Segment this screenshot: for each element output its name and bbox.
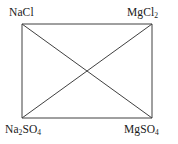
node-label-top-right: MgCl2 xyxy=(127,7,158,20)
node-label-bottom-left: Na2SO4 xyxy=(5,124,41,137)
formula-na2so4-so: SO xyxy=(22,123,37,135)
formula-nacl: NaCl xyxy=(9,6,34,18)
formula-mgcl2-base: MgCl xyxy=(127,6,154,18)
formula-mgcl2-subscript: 2 xyxy=(154,11,158,20)
diagram-canvas: NaCl MgCl2 Na2SO4 MgSO4 xyxy=(0,0,178,144)
formula-mgso4-subscript: 4 xyxy=(155,128,159,137)
formula-na2so4-na: Na xyxy=(5,123,19,135)
node-label-top-left: NaCl xyxy=(9,7,34,19)
formula-na2so4-so-subscript: 4 xyxy=(37,128,41,137)
formula-mgso4-base: MgSO xyxy=(124,123,155,135)
node-label-bottom-right: MgSO4 xyxy=(124,124,159,137)
